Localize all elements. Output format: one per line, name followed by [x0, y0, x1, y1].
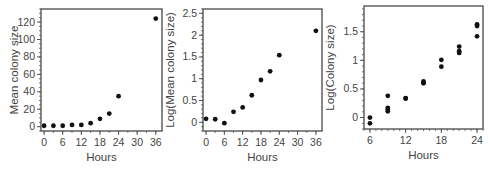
x-tick-label: 12 [237, 136, 249, 148]
y-tick-label: 100 [17, 33, 35, 45]
y-tick-label: 0 [352, 111, 358, 123]
x-tick-label: 12 [400, 134, 412, 146]
data-point [60, 123, 65, 128]
data-point [259, 78, 264, 83]
data-point [204, 116, 209, 121]
x-axis-title: Hours [408, 149, 439, 161]
chart-svg: 612182400.511.5HoursLog(Colony size) [320, 0, 492, 178]
x-tick-label: 18 [94, 136, 106, 148]
data-point [42, 123, 47, 128]
data-point [368, 121, 373, 126]
x-tick-label: 0 [203, 136, 209, 148]
data-point [107, 111, 112, 116]
data-point [421, 81, 426, 86]
x-tick-label: 6 [367, 134, 373, 146]
chart-svg: 061218243036020406080100120HoursMean col… [0, 0, 168, 178]
x-tick-label: 12 [75, 136, 87, 148]
y-tick-label: 2.5 [182, 7, 197, 19]
plot-frame [364, 6, 483, 129]
chart-log-colony-size: 612182400.511.5HoursLog(Colony size) [320, 0, 492, 178]
data-point [79, 123, 84, 128]
chart-svg: 06121824303600.511.522.5HoursLog(Mean co… [160, 0, 328, 178]
data-point [403, 96, 408, 101]
x-tick-label: 24 [113, 136, 125, 148]
x-axis-title: Hours [247, 151, 278, 163]
x-tick-label: 18 [255, 136, 267, 148]
x-tick-label: 24 [471, 134, 483, 146]
y-tick-label: 20 [23, 103, 35, 115]
data-point [457, 51, 462, 56]
x-tick-label: 24 [273, 136, 285, 148]
data-point [385, 93, 390, 98]
data-point [475, 24, 480, 29]
data-point [268, 69, 273, 74]
plot-frame [203, 9, 322, 131]
y-tick-label: 1 [352, 54, 358, 66]
chart-mean-colony-size: 061218243036020406080100120HoursMean col… [0, 0, 168, 178]
y-tick-label: 0.5 [343, 82, 358, 94]
data-point [70, 123, 75, 128]
y-tick-label: 1.5 [343, 25, 358, 37]
data-point [385, 109, 390, 114]
x-tick-label: 6 [60, 136, 66, 148]
x-tick-label: 30 [131, 136, 143, 148]
y-tick-label: 0 [29, 120, 35, 132]
y-axis-title: Log(Mean colony size) [164, 12, 176, 128]
data-point [475, 34, 480, 39]
x-tick-label: 18 [436, 134, 448, 146]
data-point [313, 28, 318, 33]
data-point [98, 116, 103, 121]
chart-log-mean-colony-size: 06121824303600.511.522.5HoursLog(Mean co… [160, 0, 328, 178]
data-point [439, 57, 444, 62]
data-point [213, 117, 218, 122]
y-tick-label: 80 [23, 50, 35, 62]
data-point [153, 16, 158, 21]
y-tick-label: 1.5 [182, 50, 197, 62]
data-point [88, 121, 93, 126]
y-axis-title: Log(Colony size) [324, 24, 336, 110]
y-tick-label: 2 [191, 29, 197, 41]
y-tick-label: 0.5 [182, 94, 197, 106]
x-tick-label: 0 [41, 136, 47, 148]
data-point [222, 121, 227, 126]
y-tick-label: 60 [23, 68, 35, 80]
y-tick-label: 120 [17, 16, 35, 28]
data-point [439, 64, 444, 69]
data-point [51, 123, 56, 128]
data-point [240, 105, 245, 110]
data-point [457, 44, 462, 49]
data-point [116, 94, 121, 99]
y-tick-label: 40 [23, 85, 35, 97]
data-point [231, 109, 236, 114]
data-point [277, 53, 282, 58]
y-tick-label: 0 [191, 116, 197, 128]
x-tick-label: 6 [221, 136, 227, 148]
data-point [249, 93, 254, 98]
data-point [368, 115, 373, 120]
plot-frame [41, 9, 162, 131]
x-axis-title: Hours [86, 151, 117, 163]
y-tick-label: 1 [191, 72, 197, 84]
y-axis-title: Mean colony size [8, 26, 20, 115]
x-tick-label: 30 [292, 136, 304, 148]
